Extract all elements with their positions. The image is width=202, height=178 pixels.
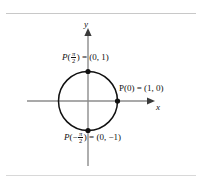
fraction-numerator: π [71,51,76,58]
fraction-negative-pi-over-2: π 2 [78,131,83,145]
y-axis-label: y [84,20,88,29]
label-bottom-open-paren: (− [70,132,78,142]
fraction-pi-over-2: π 2 [71,51,76,65]
point-p-zero [115,98,120,103]
fraction-denominator: 2 [71,58,76,65]
label-p-pi-over-2: P( π 2 ) = (0, 1) [62,51,109,65]
label-right-text: P(0) = (1, 0) [119,83,164,93]
y-axis-arrowhead [84,28,91,36]
label-bottom-value: = (0, −1) [87,132,121,142]
fraction-numerator: π [78,131,83,138]
unit-circle-figure: P( π 2 ) = (0, 1) P(0) = (1, 0) P(− π 2 … [0,0,202,178]
label-p-negative-pi-over-2: P(− π 2 ) = (0, −1) [64,131,121,145]
unit-circle-plot [0,0,202,178]
fraction-denominator: 2 [78,138,83,145]
label-top-value: = (0, 1) [80,52,109,62]
x-axis-label: x [156,103,160,112]
point-p-pi-over-2 [85,69,90,74]
x-axis-arrowhead [147,97,155,104]
label-p-zero: P(0) = (1, 0) [119,84,164,93]
